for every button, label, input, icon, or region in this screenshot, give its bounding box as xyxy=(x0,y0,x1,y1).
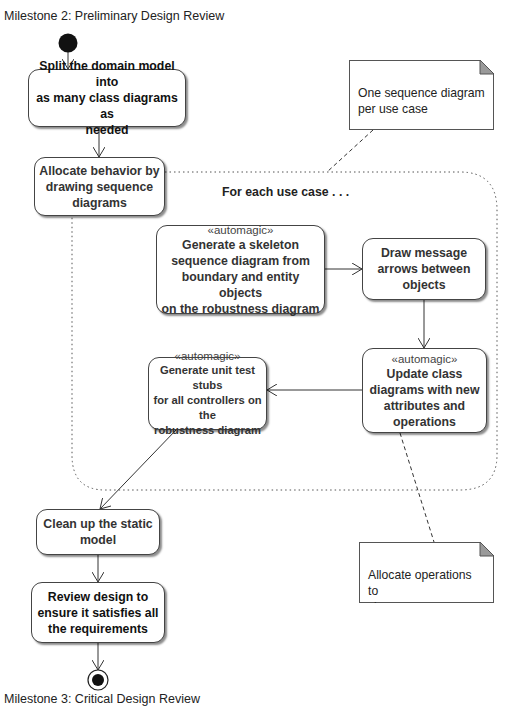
activity-generate-skeleton[interactable]: «automagic» Generate a skeleton sequence… xyxy=(156,225,325,314)
loop-region-label: For each use case . . . xyxy=(222,185,349,199)
activity-review-design[interactable]: Review design to ensure it satisfies all… xyxy=(31,582,165,643)
activity-clean-up-static-model[interactable]: Clean up the static model xyxy=(36,509,160,555)
activity-allocate-behavior[interactable]: Allocate behavior by drawing sequence di… xyxy=(34,157,165,216)
stereotype-label: «automagic» xyxy=(208,223,274,237)
note-anchor-1 xyxy=(327,130,373,172)
activity-label: Generate a skeleton sequence diagram fro… xyxy=(161,237,320,317)
activity-update-class-diagrams[interactable]: «automagic» Update class diagrams with n… xyxy=(362,348,487,433)
stereotype-label: «automagic» xyxy=(175,349,241,363)
activity-label: Allocate behavior by drawing sequence di… xyxy=(39,163,159,211)
activity-label: Review design to ensure it satisfies all… xyxy=(38,589,159,637)
end-milestone-label: Milestone 3: Critical Design Review xyxy=(4,692,200,706)
loop-region-border xyxy=(72,172,497,490)
activity-draw-message-arrows[interactable]: Draw message arrows between objects xyxy=(362,238,486,300)
activity-generate-unit-test-stubs[interactable]: «automagic» Generate unit test stubs for… xyxy=(148,357,267,430)
note-text: One sequence diagram per use case xyxy=(358,86,485,116)
activity-label: Clean up the static model xyxy=(43,516,152,548)
start-node xyxy=(59,34,78,53)
note-sequence-per-use-case: One sequence diagram per use case xyxy=(349,60,494,130)
activity-label: Draw message arrows between objects xyxy=(378,245,471,293)
stereotype-label: «automagic» xyxy=(392,352,458,366)
note-anchor-2 xyxy=(400,433,434,542)
activity-label: Generate unit test stubs for all control… xyxy=(149,363,266,438)
activity-label: Update class diagrams with new attribute… xyxy=(369,366,479,430)
start-milestone-label: Milestone 2: Preliminary Design Review xyxy=(4,9,224,23)
note-allocate-operations: Allocate operations to classes xyxy=(359,542,494,603)
activity-split-domain-model[interactable]: Split the domain model into as many clas… xyxy=(28,69,186,127)
activity-label: Split the domain model into as many clas… xyxy=(33,58,181,138)
end-node-inner xyxy=(92,674,104,686)
